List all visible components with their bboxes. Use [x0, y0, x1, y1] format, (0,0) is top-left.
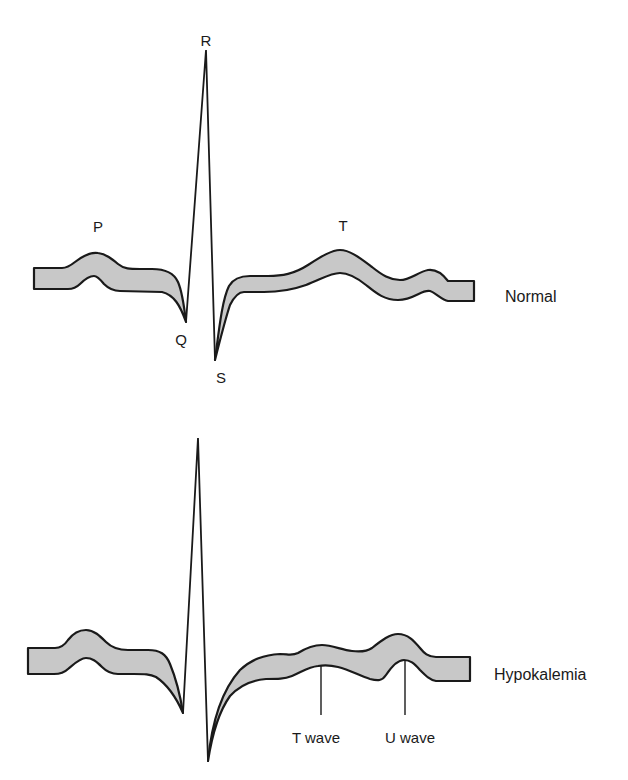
hypokalemia-trace: T wave U wave Hypokalemia: [28, 438, 587, 761]
t-wave-annotation: T wave: [292, 729, 340, 746]
normal-trace-label: Normal: [505, 288, 557, 305]
hypokalemia-pr-segment-band: [28, 630, 183, 713]
normal-st-t-u-band: [215, 250, 474, 360]
normal-trace: P R Q S T Normal: [34, 32, 557, 386]
r-wave-label: R: [201, 32, 212, 49]
normal-qrs-complex: [186, 50, 215, 360]
t-wave-label: T: [338, 217, 347, 234]
normal-pr-segment-band: [34, 253, 186, 322]
u-wave-annotation: U wave: [385, 729, 435, 746]
ecg-diagram: P R Q S T Normal T wave U wave Hypokalem…: [0, 0, 628, 780]
q-wave-label: Q: [175, 331, 187, 348]
s-wave-label: S: [216, 369, 226, 386]
hypokalemia-qrs-complex: [183, 438, 208, 761]
hypokalemia-trace-label: Hypokalemia: [494, 666, 587, 683]
p-wave-label: P: [93, 218, 103, 235]
